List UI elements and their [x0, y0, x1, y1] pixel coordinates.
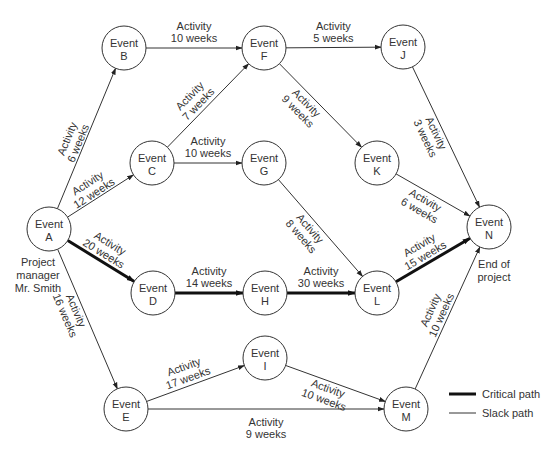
event-label: Event: [392, 398, 420, 410]
note-line: manager: [16, 269, 60, 281]
note-line: End of: [478, 258, 511, 270]
event-id: J: [400, 49, 406, 61]
event-node-n: EventN: [467, 205, 511, 249]
activity-label-line: Activity: [191, 135, 226, 147]
event-label: Event: [112, 398, 140, 410]
event-id: C: [148, 165, 156, 177]
event-label: Event: [389, 36, 417, 48]
legend-critical-label: Critical path: [482, 388, 540, 400]
event-nodes: EventAEventBEventCEventDEventEEventFEven…: [27, 25, 511, 431]
event-node-g: EventG: [242, 141, 286, 185]
event-id: N: [485, 229, 493, 241]
event-node-a: EventA: [27, 207, 71, 251]
event-node-b: EventB: [102, 26, 146, 70]
activity-label-e-m: Activity9 weeks: [246, 416, 287, 440]
event-node-i: EventI: [243, 336, 287, 380]
activity-label-b-f: Activity10 weeks: [171, 20, 218, 44]
activity-label-line: Activity: [316, 20, 351, 32]
activity-duration: 30 weeks: [298, 277, 345, 289]
activity-label-line: Activity: [192, 265, 227, 277]
activity-duration: 10 weeks: [185, 147, 232, 159]
event-label: Event: [250, 37, 278, 49]
event-id: E: [122, 411, 129, 423]
event-label: Event: [363, 152, 391, 164]
event-node-d: EventD: [131, 271, 175, 315]
end-of-project-note: End of project: [477, 258, 510, 283]
event-node-j: EventJ: [381, 25, 425, 69]
event-id: F: [261, 50, 268, 62]
event-id: M: [401, 411, 410, 423]
activity-duration: 10 weeks: [171, 32, 218, 44]
project-manager-note: Project manager Mr. Smith: [15, 256, 61, 294]
activity-label-line: Activity: [249, 416, 284, 428]
activity-label-c-f: Activity7 weeks: [171, 77, 217, 123]
event-label: Event: [250, 152, 278, 164]
activity-label-h-l: Activity30 weeks: [298, 265, 345, 289]
activity-duration: 5 weeks: [313, 32, 354, 44]
activity-label-f-k: Activity9 weeks: [280, 84, 326, 130]
event-label: Event: [138, 152, 166, 164]
event-id: D: [149, 295, 157, 307]
event-id: G: [260, 165, 269, 177]
event-node-f: EventF: [242, 26, 286, 70]
event-node-k: EventK: [355, 141, 399, 185]
note-line: Mr. Smith: [15, 282, 61, 294]
activity-label-e-i: Activity17 weeks: [160, 353, 212, 392]
activity-duration: 14 weeks: [186, 277, 233, 289]
activity-label-d-h: Activity14 weeks: [186, 265, 233, 289]
pert-diagram: Activity6 weeksActivity12 weeksActivity2…: [0, 0, 553, 453]
event-label: Event: [35, 218, 63, 230]
event-id: H: [261, 295, 269, 307]
event-id: I: [263, 360, 266, 372]
event-id: A: [45, 231, 53, 243]
event-label: Event: [363, 282, 391, 294]
activity-label-j-n: Activity3 weeks: [411, 112, 450, 159]
activity-label-line: Activity: [304, 265, 339, 277]
event-id: K: [373, 165, 381, 177]
event-node-m: EventM: [384, 387, 428, 431]
note-line: Project: [21, 256, 55, 268]
event-label: Event: [251, 347, 279, 359]
activity-label-line: Activity: [177, 20, 212, 32]
event-id: B: [120, 50, 127, 62]
event-id: L: [374, 295, 380, 307]
activity-label-k-n: Activity6 weeks: [399, 185, 446, 226]
event-label: Event: [110, 37, 138, 49]
activity-label-i-m: Activity10 weeks: [300, 375, 352, 414]
event-label: Event: [475, 216, 503, 228]
slack-edge-f-j: [286, 47, 381, 48]
activity-duration: 9 weeks: [246, 428, 287, 440]
event-node-c: EventC: [130, 141, 174, 185]
legend-slack-label: Slack path: [482, 407, 533, 419]
legend: Critical path Slack path: [449, 388, 540, 419]
note-line: project: [477, 271, 510, 283]
event-node-l: EventL: [355, 271, 399, 315]
event-label: Event: [251, 282, 279, 294]
activity-label-c-g: Activity10 weeks: [185, 135, 232, 159]
activity-label-g-l: Activity8 weeks: [283, 209, 328, 256]
event-node-h: EventH: [243, 271, 287, 315]
event-label: Event: [139, 282, 167, 294]
event-node-e: EventE: [104, 387, 148, 431]
activity-label-f-j: Activity5 weeks: [313, 20, 354, 44]
